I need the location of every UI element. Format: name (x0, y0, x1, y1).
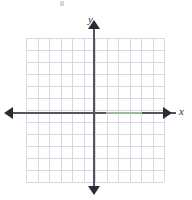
grid-line-horizontal (26, 50, 164, 51)
grid-line-horizontal (26, 110, 164, 111)
grid-line-vertical (61, 38, 62, 182)
y-axis-label: y (88, 14, 93, 25)
coordinate-plane-figure: y x (0, 0, 192, 200)
grid-line-horizontal (26, 98, 164, 99)
grid-line-vertical (107, 38, 108, 182)
grid-line-vertical (130, 38, 131, 182)
x-axis-highlight-segment (106, 112, 142, 114)
y-axis-line (93, 25, 95, 191)
arrow-down-icon (88, 186, 100, 195)
grid-line-horizontal (26, 86, 164, 87)
scan-artifact (60, 1, 64, 6)
grid-line-horizontal (26, 122, 164, 123)
arrow-left-icon (4, 107, 13, 119)
arrow-right-icon (163, 107, 172, 119)
grid-line-vertical (84, 38, 85, 182)
grid-line-vertical (26, 38, 27, 182)
graph-grid (26, 38, 164, 182)
grid-line-vertical (118, 38, 119, 182)
grid-line-vertical (38, 38, 39, 182)
grid-line-horizontal (26, 38, 164, 39)
grid-horizontal-lines (26, 38, 164, 182)
grid-line-vertical (72, 38, 73, 182)
x-axis-label: x (179, 106, 184, 117)
grid-line-vertical (95, 38, 96, 182)
grid-vertical-lines (26, 38, 164, 182)
grid-line-horizontal (26, 146, 164, 147)
grid-line-horizontal (26, 182, 164, 183)
grid-line-vertical (49, 38, 50, 182)
grid-line-horizontal (26, 134, 164, 135)
grid-line-horizontal (26, 158, 164, 159)
grid-line-vertical (153, 38, 154, 182)
grid-line-horizontal (26, 170, 164, 171)
grid-line-vertical (141, 38, 142, 182)
grid-line-horizontal (26, 62, 164, 63)
grid-line-horizontal (26, 74, 164, 75)
